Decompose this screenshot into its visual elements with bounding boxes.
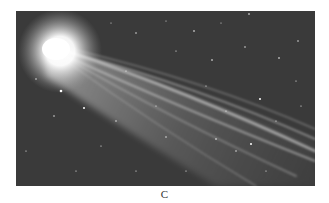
comet-photo bbox=[16, 11, 315, 186]
figure-caption: C bbox=[0, 188, 329, 201]
comet-image bbox=[16, 11, 315, 186]
